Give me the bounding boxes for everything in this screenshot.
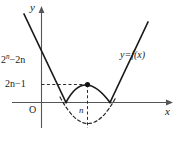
curve-right-branch — [110, 22, 148, 103]
vertex-point-marker — [85, 82, 90, 87]
vertex-x-tick-label: n — [79, 106, 84, 115]
curve-equation-label: y=f(x) — [120, 50, 145, 60]
x-axis-label: x — [165, 106, 170, 117]
math-figure-graph: y x O n 2n−2n 2n−1 y=f(x) — [0, 0, 177, 142]
y-intercept-tick-label: 2n−2n — [1, 54, 25, 65]
curve-left-branch — [24, 14, 66, 103]
curve-hump-above-axis — [66, 85, 110, 103]
y-axis-arrowhead — [39, 6, 45, 13]
origin-label: O — [29, 105, 36, 115]
y-intercept-rest: −2n — [10, 54, 26, 65]
y-axis-label: y — [30, 2, 35, 13]
vertex-height-tick-label: 2n−1 — [5, 79, 26, 89]
graph-canvas — [0, 0, 177, 142]
